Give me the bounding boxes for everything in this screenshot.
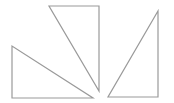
middle-triangle: [49, 6, 99, 91]
right-triangle: [108, 11, 158, 97]
left-triangle: [12, 46, 93, 98]
triangles-diagram: [0, 0, 174, 103]
